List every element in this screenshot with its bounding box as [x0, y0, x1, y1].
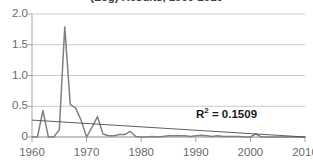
- r2-value: = 0.1509: [209, 108, 257, 120]
- x-axis-labels: 196019701980199020002010: [0, 143, 313, 163]
- y-tick-label: 2.0: [2, 8, 28, 19]
- y-axis-labels: 00.51.01.52.0: [0, 0, 28, 165]
- x-tick-label: 1970: [74, 146, 100, 158]
- x-tick-label: 1990: [183, 146, 209, 158]
- trendline-path: [32, 120, 305, 137]
- plot-area: [0, 0, 313, 165]
- x-tick-label: 1960: [19, 146, 45, 158]
- x-tick-label: 2010: [292, 146, 313, 158]
- gridlines: [32, 14, 305, 106]
- data-series-path: [32, 27, 305, 137]
- x-tick-label: 2000: [238, 146, 264, 158]
- r-squared-annotation: R2 = 0.1509: [196, 108, 257, 120]
- x-tick-label: 1980: [128, 146, 154, 158]
- y-tick-label: 1.0: [2, 70, 28, 81]
- y-tick-label: 0.5: [2, 100, 28, 111]
- y-tick-label: 1.5: [2, 39, 28, 50]
- chart-container: (Log) Results, 1960-2010 00.51.01.52.0 1…: [0, 0, 313, 165]
- series-paths: [32, 27, 305, 137]
- y-tick-label: 0: [2, 131, 28, 142]
